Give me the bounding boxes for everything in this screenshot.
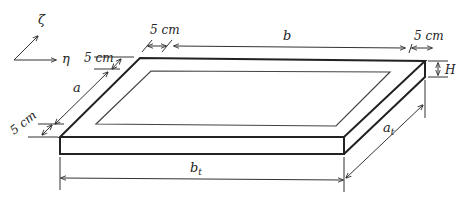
witness-line: [409, 44, 412, 53]
dim-thickness: H: [428, 61, 456, 77]
total-length-dim: [61, 178, 343, 180]
plate-diagram: ζ η 5 cm b 5 cm H 5 cm a: [0, 0, 466, 204]
border-left-top-label: 5 cm: [84, 51, 114, 65]
border-top-label: 5 cm: [150, 23, 180, 37]
border-left-bottom-dim: [42, 125, 52, 135]
total-width-label: at: [383, 120, 395, 137]
inner-length-label: b: [283, 28, 291, 43]
zeta-label: ζ: [38, 12, 46, 27]
dim-total-width: at: [346, 80, 425, 178]
plate-inner-panel: [96, 71, 390, 126]
plate-side-face: [344, 61, 425, 154]
plate: [60, 58, 425, 154]
inner-width-label: a: [73, 80, 81, 95]
dim-total-length: bt: [60, 157, 344, 192]
dim-top: 5 cm b 5 cm: [142, 23, 444, 53]
thickness-label: H: [444, 63, 456, 77]
border-left-bottom-label: 5 cm: [7, 108, 39, 137]
zeta-axis-arrow: [14, 36, 38, 60]
total-length-label: bt: [190, 160, 202, 177]
border-right-label: 5 cm: [414, 29, 444, 43]
eta-label: η: [62, 51, 70, 66]
axis-indicator: ζ η: [14, 12, 70, 66]
inner-length-dim: [174, 46, 405, 48]
plate-front-face: [60, 137, 344, 154]
